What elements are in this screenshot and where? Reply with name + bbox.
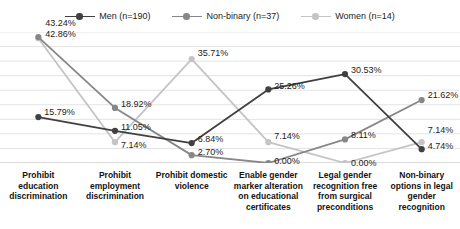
data-label: 35.71% [198,49,229,58]
x-axis-category-line: preconditions [308,202,383,213]
data-point-marker [112,105,118,111]
legend-item-women[interactable]: Women (n=14) [301,11,395,21]
data-point-marker [35,34,41,40]
data-label: 30.53% [351,66,382,75]
data-point-marker [265,86,271,92]
x-axis-category-line: discrimination [78,191,153,202]
data-point-marker [419,97,425,103]
x-axis-category-line: Non-binary [384,170,459,181]
data-point-marker [419,139,425,145]
data-point-marker [342,71,348,77]
data-label: 42.86% [45,30,76,39]
data-point-marker [419,146,425,152]
data-point-marker [342,160,348,163]
x-axis-category-line: marker alteration [231,181,306,192]
legend-item-men[interactable]: Men (n=190) [65,11,150,21]
data-point-marker [189,56,195,62]
x-axis-category: Enable gendermarker alterationon educati… [230,166,307,224]
data-label: 11.05% [121,123,151,132]
line-chart: Men (n=190) Non-binary (n=37) Women (n=1… [0,0,460,229]
x-axis-category: Prohibit domesticviolence [153,166,230,224]
x-axis-category: Prohibitemploymentdiscrimination [77,166,154,224]
plot-area [0,32,460,163]
data-point-marker [265,160,271,163]
x-axis-category-line: Enable gender [231,170,306,181]
data-label: 7.14% [121,141,147,150]
data-label: 8.11% [351,131,376,140]
x-axis-category-line: Prohibit [1,170,76,181]
data-label: 4.74% [428,142,454,151]
data-label: 43.24% [45,19,76,28]
data-label: 7.14% [274,132,300,141]
x-axis-category-line: Prohibit domestic [154,170,229,181]
x-axis-category-line: discrimination [1,191,76,202]
data-label: 25.26% [274,82,305,91]
plot-canvas [0,32,460,163]
data-point-marker [189,152,195,158]
x-axis-category: Non-binaryoptions in legalgenderrecognit… [383,166,460,224]
x-axis-category-line: options in legal [384,181,459,192]
data-point-marker [112,128,118,134]
data-point-marker [112,139,118,145]
legend-marker-women [301,12,331,21]
legend-item-non-binary[interactable]: Non-binary (n=37) [172,11,279,21]
x-axis-category-line: Prohibit [78,170,153,181]
data-label: 18.92% [121,100,152,109]
legend-label-women: Women (n=14) [335,11,395,21]
x-axis-category-line: violence [154,181,229,192]
legend-label-non-binary: Non-binary (n=37) [206,11,279,21]
legend-marker-non-binary [172,12,202,21]
data-label: 6.84% [198,135,224,144]
x-axis-category-line: Legal gender [308,170,383,181]
x-axis-category-labels: ProhibiteducationdiscriminationProhibite… [0,166,460,224]
data-point-marker [265,139,271,145]
data-label: 0.00% [274,157,300,166]
data-label: 2.70% [198,148,224,157]
x-axis-category-line: recognition free [308,181,383,192]
x-axis-category-line: from surgical [308,191,383,202]
data-label: 21.62% [428,91,459,100]
x-axis-category-line: certificates [231,202,306,213]
x-axis-category-line: employment [78,181,153,192]
data-point-marker [35,114,41,120]
x-axis-category-line: recognition [384,202,459,213]
x-axis-category-line: education [1,181,76,192]
data-label: 7.14% [428,126,454,135]
x-axis-category: Prohibiteducationdiscrimination [0,166,77,224]
legend-label-men: Men (n=190) [99,11,150,21]
x-axis-category-line: on educational [231,191,306,202]
data-point-marker [342,136,348,142]
data-point-marker [189,140,195,146]
data-label: 15.79% [44,108,75,117]
x-axis-category: Legal genderrecognition freefrom surgica… [307,166,384,224]
x-axis-category-line: gender [384,191,459,202]
series-line [38,38,421,163]
